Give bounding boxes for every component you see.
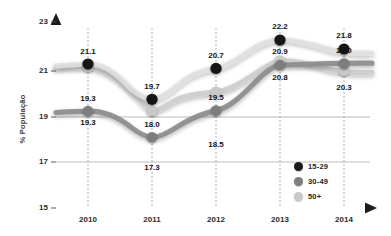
legend-item-50plus[interactable]: 50+ [294,189,374,204]
legend-label-50plus: 50+ [308,192,321,201]
y-tick-21: 21 [26,66,48,75]
chart-legend: 15-29 30-49 50+ [294,159,374,204]
y-tick-19: 19 [26,112,48,121]
y-tick-23: 23 [26,17,48,26]
x-tick-2012: 2012 [196,215,236,224]
x-axis [56,203,377,214]
legend-dot-icon-15-29 [294,162,303,171]
x-tick-2010: 2010 [68,215,108,224]
data-label-50plus-2011: 17.3 [135,163,169,172]
data-label-30-49-2010: 19.3 [71,94,105,103]
data-label-30-49-2011: 18.0 [135,120,169,129]
legend-dot-icon-50plus [294,192,303,201]
data-label-15-29-2013: 22.2 [263,22,297,31]
data-label-15-29-2012: 20.7 [199,51,233,60]
legend-label-15-29: 15-29 [308,162,328,171]
x-tick-2014: 2014 [324,215,364,224]
data-label-30-49-2012: 19.5 [199,93,233,102]
x-tick-2011: 2011 [132,215,172,224]
data-label-50plus-2014: 20.3 [327,83,361,92]
data-label-30-49-2014: 21.0 [327,46,361,55]
data-label-15-29-2010: 21.1 [71,47,105,56]
data-label-30-49-2013: 20.9 [263,47,297,56]
legend-item-15-29[interactable]: 15-29 [294,159,374,174]
x-tick-2013: 2013 [260,215,300,224]
data-label-15-29-2014: 21.8 [327,31,361,40]
data-label-50plus-2010: 19.3 [71,118,105,127]
legend-item-30-49[interactable]: 30-49 [294,174,374,189]
chart-container: % População 23 21 19 17 15 2010 2011 201… [0,0,391,236]
y-tick-15: 15 [26,203,48,212]
data-label-50plus-2012: 18.5 [199,140,233,149]
legend-dot-icon-30-49 [294,177,303,186]
legend-label-30-49: 30-49 [308,177,328,186]
data-label-15-29-2011: 19.7 [135,82,169,91]
y-tick-17: 17 [26,157,48,166]
data-label-50plus-2013: 20.8 [263,73,297,82]
